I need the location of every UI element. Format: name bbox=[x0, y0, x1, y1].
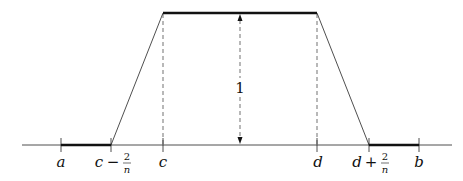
svg-text:n: n bbox=[382, 164, 388, 175]
label-a: a bbox=[57, 153, 66, 171]
svg-text:+: + bbox=[365, 153, 378, 171]
label-d: d bbox=[313, 153, 323, 171]
falling-slope bbox=[317, 13, 369, 145]
svg-text:n: n bbox=[124, 164, 130, 175]
label-c: c bbox=[159, 153, 168, 171]
label-c-minus-2-over-n: c − 2 n bbox=[95, 151, 131, 175]
height-label: 1 bbox=[235, 79, 245, 97]
label-b: b bbox=[414, 153, 424, 171]
svg-text:c: c bbox=[95, 153, 104, 171]
svg-text:2: 2 bbox=[382, 151, 388, 162]
label-d-plus-2-over-n: d + 2 n bbox=[352, 151, 389, 175]
arrow-down-icon bbox=[238, 137, 243, 144]
svg-text:−: − bbox=[107, 153, 120, 171]
rising-slope bbox=[111, 13, 163, 145]
arrow-up-icon bbox=[238, 14, 243, 21]
svg-text:2: 2 bbox=[124, 151, 130, 162]
svg-text:d: d bbox=[352, 153, 362, 171]
trapezoid-diagram: 1 a c − 2 n c d d + 2 n b bbox=[0, 0, 463, 181]
